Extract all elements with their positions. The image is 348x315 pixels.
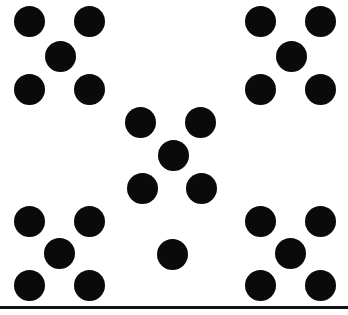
dot-pattern-figure — [0, 0, 348, 315]
bottom-left-quincunx — [0, 0, 348, 315]
dot-c-2 — [185, 107, 216, 138]
dot-tl-4 — [14, 74, 45, 105]
dot-br-2 — [305, 206, 336, 237]
dot-tr-2 — [305, 6, 336, 37]
dot-tr-4 — [245, 74, 276, 105]
dot-tr-3 — [276, 41, 307, 72]
dot-bl-3 — [44, 238, 75, 269]
bottom-right-quincunx — [0, 0, 348, 315]
dot-bl-2 — [74, 206, 105, 237]
dot-br-4 — [245, 270, 276, 301]
dot-c-3 — [158, 140, 189, 171]
top-left-quincunx — [0, 0, 348, 315]
dot-br-1 — [245, 206, 276, 237]
dot-bl-1 — [14, 206, 45, 237]
top-right-quincunx — [0, 0, 348, 315]
dot-tr-1 — [245, 6, 276, 37]
bottom-center-single — [0, 0, 348, 315]
bottom-rule — [0, 306, 348, 309]
dot-single-1 — [157, 239, 188, 270]
dot-c-4 — [127, 173, 158, 204]
dot-c-1 — [125, 107, 156, 138]
dot-tl-1 — [14, 6, 45, 37]
dot-tl-3 — [45, 41, 76, 72]
dot-tr-5 — [305, 74, 336, 105]
dot-br-3 — [275, 238, 306, 269]
dot-tl-2 — [74, 6, 105, 37]
center-quincunx — [0, 0, 348, 315]
dot-bl-4 — [14, 270, 45, 301]
dot-br-5 — [305, 270, 336, 301]
dot-tl-5 — [74, 74, 105, 105]
dot-c-5 — [186, 173, 217, 204]
dot-bl-5 — [74, 270, 105, 301]
